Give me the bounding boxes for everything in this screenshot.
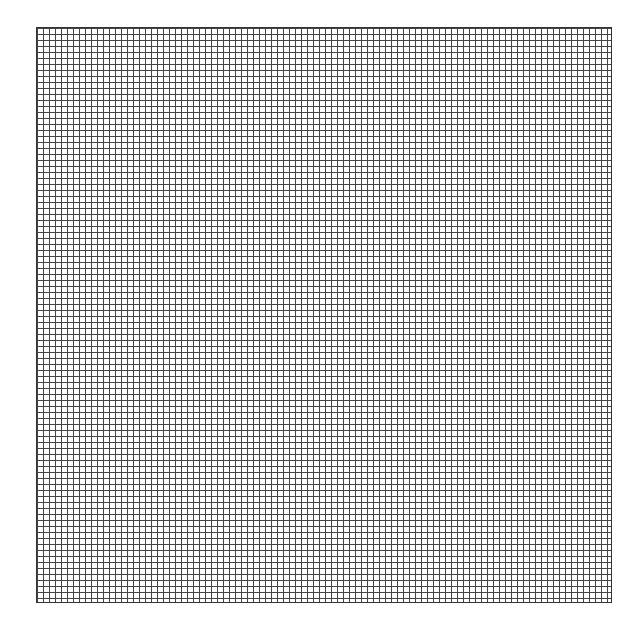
square-grid	[36, 27, 612, 603]
